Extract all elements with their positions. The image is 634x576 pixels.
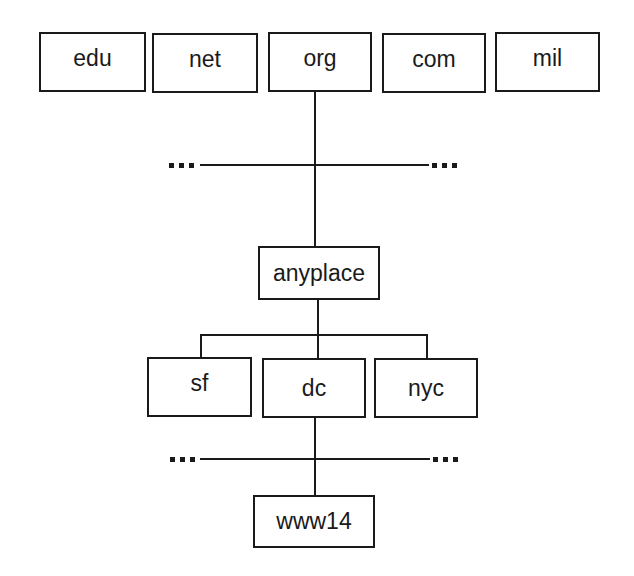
dot [190, 457, 195, 462]
connector-to-sf [200, 334, 202, 358]
dot [189, 163, 194, 168]
connector-to-nyc [426, 334, 428, 359]
node-label: sf [191, 372, 209, 395]
connector-anyplace-branch [317, 299, 319, 336]
level3-sibling-bus [200, 458, 430, 460]
connector-org-anyplace [314, 91, 316, 247]
node-org: org [268, 32, 372, 92]
node-label: www14 [276, 510, 351, 533]
node-label: nyc [408, 377, 444, 400]
dot [453, 457, 458, 462]
ellipsis-icon [170, 457, 200, 463]
node-net: net [152, 33, 258, 93]
node-label: net [189, 48, 221, 71]
node-edu: edu [39, 32, 146, 92]
dot [452, 163, 457, 168]
node-nyc: nyc [374, 358, 478, 418]
ellipsis-icon [169, 163, 199, 169]
node-com: com [382, 33, 486, 93]
node-label: anyplace [273, 262, 365, 285]
dot [180, 457, 185, 462]
ellipsis-icon [432, 163, 462, 169]
node-label: mil [533, 47, 562, 70]
node-www14: www14 [253, 495, 375, 548]
dot [169, 163, 174, 168]
ellipsis-icon [433, 457, 463, 463]
dot [170, 457, 175, 462]
dot [442, 163, 447, 168]
node-dc: dc [262, 358, 366, 418]
node-label: edu [73, 47, 111, 70]
node-label: dc [302, 377, 326, 400]
dot [179, 163, 184, 168]
node-mil: mil [495, 32, 600, 92]
node-label: com [412, 48, 455, 71]
node-anyplace: anyplace [258, 246, 380, 300]
connector-dc-www14 [314, 417, 316, 496]
node-label: org [303, 47, 336, 70]
dot [432, 163, 437, 168]
node-sf: sf [147, 357, 252, 417]
level1-sibling-bus [200, 164, 429, 166]
connector-to-dc [317, 334, 319, 359]
branch-bus [200, 334, 428, 336]
dot [443, 457, 448, 462]
dot [433, 457, 438, 462]
dns-tree-diagram: edu net org com mil anyplace sf dc nyc [0, 0, 634, 576]
